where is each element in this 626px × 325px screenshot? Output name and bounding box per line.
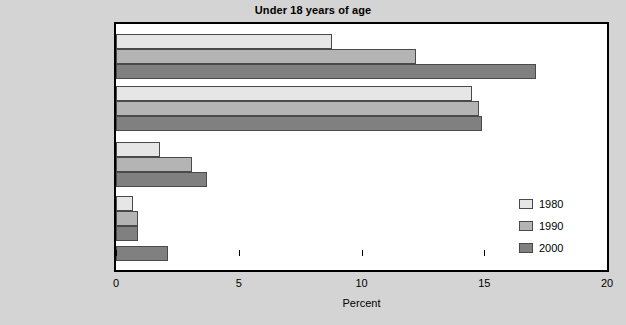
bar-1990-4 [116, 211, 138, 226]
legend-label-1990: 1990 [539, 220, 563, 232]
x-tick-mark-15 [484, 250, 485, 256]
x-tick-label-20: 20 [601, 277, 613, 289]
bar-1980-3 [116, 142, 160, 157]
bar-1990-3 [116, 157, 192, 172]
chart-container: Under 18 years of age Hispanic Black1 As… [0, 0, 626, 325]
legend-swatch-2000 [519, 243, 533, 253]
legend: 198019902000 [519, 193, 563, 259]
legend-swatch-1990 [519, 221, 533, 231]
x-tick-mark-5 [239, 250, 240, 256]
legend-label-1980: 1980 [539, 198, 563, 210]
bar-1980-2 [116, 86, 472, 101]
bar-2000-5 [116, 246, 168, 261]
bar-2000-2 [116, 116, 482, 131]
x-tick-mark-20 [607, 250, 608, 256]
x-tick-mark-10 [362, 250, 363, 256]
x-tick-label-0: 0 [113, 277, 119, 289]
legend-item-1980: 1980 [519, 193, 563, 215]
x-tick-label-5: 5 [236, 277, 242, 289]
x-tick-label-10: 10 [355, 277, 367, 289]
bar-1990-1 [116, 49, 416, 64]
chart-title: Under 18 years of age [0, 4, 626, 16]
x-tick-label-15: 15 [478, 277, 490, 289]
legend-item-1990: 1990 [519, 215, 563, 237]
bar-2000-1 [116, 64, 536, 79]
bar-1990-2 [116, 101, 479, 116]
bar-2000-4 [116, 226, 138, 241]
x-tick-mark-0 [116, 250, 117, 256]
legend-swatch-1980 [519, 199, 533, 209]
bar-1980-4 [116, 196, 133, 211]
legend-label-2000: 2000 [539, 242, 563, 254]
legend-item-2000: 2000 [519, 237, 563, 259]
bar-2000-3 [116, 172, 207, 187]
x-axis-title: Percent [114, 297, 609, 309]
bar-1980-1 [116, 34, 332, 49]
